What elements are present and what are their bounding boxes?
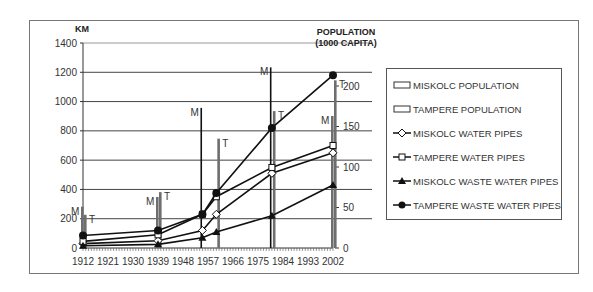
series-line	[83, 153, 333, 244]
x-axis-tick-label: 1957	[197, 256, 220, 267]
left-axis-tick-label: 400	[60, 184, 77, 195]
circle-marker-icon	[329, 71, 337, 79]
left-axis-tick-label: 600	[60, 155, 77, 166]
x-axis-tick-label: 1912	[72, 256, 95, 267]
circle-marker-icon	[393, 200, 411, 210]
square-marker-icon	[393, 152, 411, 162]
population-bar-label: M	[260, 66, 268, 77]
left-axis-tick-label: 800	[60, 125, 77, 136]
population-bar	[270, 67, 272, 248]
legend-item-tampere-water-pipes: TAMPERE WATER PIPES	[393, 150, 525, 164]
x-axis-tick-label: 2002	[322, 256, 345, 267]
legend-label: MISKOLC WASTE WATER PIPES	[413, 176, 558, 187]
population-bar-label: T	[164, 191, 170, 202]
triangle-marker-icon	[393, 176, 411, 186]
population-bar-label: T	[222, 138, 228, 149]
square-marker-icon	[269, 164, 275, 170]
series-line	[83, 185, 333, 246]
right-axis-tick-label: 0	[343, 243, 349, 254]
legend-item-tampere-waste-water-pipes: TAMPERE WASTE WATER PIPES	[393, 198, 561, 212]
left-axis-tick-label: 1400	[55, 38, 78, 49]
legend-item-miskolc-waste-water-pipes: MISKOLC WASTE WATER PIPES	[393, 174, 558, 188]
x-axis-tick-label: 1930	[122, 256, 145, 267]
legend-item-miskolc-water-pipes: MISKOLC WATER PIPES	[393, 126, 522, 140]
circle-marker-icon	[268, 124, 276, 132]
bar-swatch-icon	[393, 80, 411, 90]
square-marker-icon	[330, 143, 336, 149]
legend-item-tampere-population: TAMPERE POPULATION	[393, 102, 521, 116]
circle-marker-icon	[212, 189, 220, 197]
x-axis-tick-label: 1975	[247, 256, 270, 267]
circle-marker-icon	[154, 226, 162, 234]
legend-label: TAMPERE POPULATION	[413, 104, 521, 115]
right-axis-tick-label: 200	[343, 81, 360, 92]
legend-label: MISKOLC POPULATION	[413, 80, 519, 91]
x-axis-tick-label: 1966	[222, 256, 245, 267]
series-line	[83, 75, 333, 235]
right-axis-unit-line1: POPULATION	[310, 27, 382, 38]
left-axis-tick-label: 1000	[55, 96, 78, 107]
x-axis-tick-label: 1939	[147, 256, 170, 267]
legend-label: TAMPERE WASTE WATER PIPES	[413, 200, 561, 211]
population-bar-label: M	[71, 206, 79, 217]
legend-item-miskolc-population: MISKOLC POPULATION	[393, 78, 519, 92]
population-bar-label: T	[89, 214, 95, 225]
chart-legend: MISKOLC POPULATION TAMPERE POPULATION MI…	[386, 68, 562, 220]
left-axis-tick-label: 1200	[55, 67, 78, 78]
right-axis-tick-label: 150	[343, 121, 360, 132]
right-axis-unit-line2: (1000 CAPITA)	[310, 38, 382, 49]
x-axis-tick-label: 1921	[97, 256, 120, 267]
left-axis-tick-label: 0	[71, 243, 77, 254]
x-axis-tick-label: 1984	[272, 256, 295, 267]
legend-label: MISKOLC WATER PIPES	[413, 128, 522, 139]
legend-label: TAMPERE WATER PIPES	[413, 152, 525, 163]
right-axis-unit: POPULATION (1000 CAPITA)	[310, 27, 382, 49]
right-axis-tick-label: 100	[343, 162, 360, 173]
population-bar	[334, 80, 337, 248]
diamond-marker-icon	[393, 128, 411, 138]
population-bar-label: M	[190, 107, 198, 118]
population-bar-label: T	[339, 79, 345, 90]
population-bar-label: M	[146, 196, 154, 207]
circle-marker-icon	[198, 210, 206, 218]
x-axis-tick-label: 1948	[172, 256, 195, 267]
bar-swatch-icon	[393, 104, 411, 114]
right-axis-tick-label: 50	[343, 202, 355, 213]
circle-marker-icon	[79, 232, 87, 240]
left-axis-unit: KM	[75, 24, 89, 34]
x-axis-tick-label: 1993	[297, 256, 320, 267]
population-bar-label: M	[321, 115, 329, 126]
